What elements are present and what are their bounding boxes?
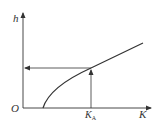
h-k-curve bbox=[43, 43, 143, 108]
y-axis-label: h bbox=[13, 12, 19, 24]
diagram-canvas: h O K KA bbox=[0, 0, 159, 127]
origin-label: O bbox=[11, 102, 19, 114]
marker-k-sub: A bbox=[92, 115, 97, 121]
marker-k-label: KA bbox=[84, 109, 97, 121]
x-axis-label: K bbox=[138, 108, 147, 120]
